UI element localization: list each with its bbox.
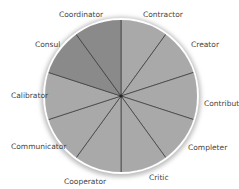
label-consul: Consul bbox=[35, 40, 60, 49]
label-contributor: Contributor bbox=[204, 99, 239, 108]
label-communicator: Communicator bbox=[11, 142, 67, 151]
label-cooperator: Cooperator bbox=[64, 177, 107, 186]
wheel-hub bbox=[120, 95, 123, 98]
role-wheel-diagram: Contractor Creator Contributor Completer… bbox=[0, 0, 239, 189]
label-coordinator: Coordinator bbox=[59, 10, 104, 19]
label-contractor: Contractor bbox=[143, 10, 184, 19]
label-calibrator: Calibrator bbox=[11, 91, 49, 100]
label-completer: Completer bbox=[188, 143, 228, 152]
label-creator: Creator bbox=[191, 40, 220, 49]
label-critic: Critic bbox=[149, 173, 169, 182]
